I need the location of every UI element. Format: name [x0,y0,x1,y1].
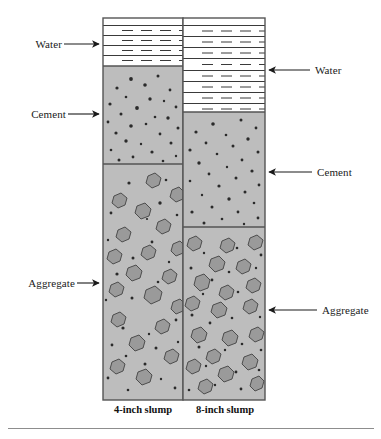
column-8-inch-slump [183,18,265,400]
callout-label-cement-left: Cement [0,108,66,120]
callout-label-aggregate-right: Aggregate [322,304,369,316]
callout-lines-left [64,44,99,283]
callout-label-water-left: Water [0,38,62,50]
callout-label-water-right: Water [315,64,342,76]
callout-label-cement-right: Cement [317,166,352,178]
callout-label-aggregate-left: Aggregate [0,277,75,289]
concrete-slump-figure: Water Cement Aggregate Water Cement Aggr… [0,0,381,439]
column-4-inch-slump [103,18,185,400]
layer-cement-4inch [103,66,183,164]
caption-8-inch-slump: 8-inch slump [184,404,266,416]
caption-4-inch-slump: 4-inch slump [103,404,183,416]
layer-cement-8inch [183,112,265,227]
callout-lines-right [269,70,317,310]
